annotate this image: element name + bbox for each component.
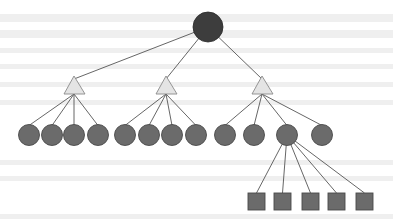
tree-edge <box>125 94 166 126</box>
square-leaf-node <box>274 193 291 210</box>
tree-edge <box>262 94 287 126</box>
tree-edges <box>29 27 365 193</box>
leaf-circle-node <box>312 125 333 146</box>
square-leaf-node <box>356 193 373 210</box>
leaf-circle-node <box>64 125 85 146</box>
triangle-node <box>64 76 85 94</box>
tree-edge <box>225 94 262 126</box>
tree-edge <box>74 94 98 126</box>
leaf-circle-node <box>277 125 298 146</box>
triangle-node <box>156 76 177 94</box>
leaf-circle-node <box>42 125 63 146</box>
leaf-circle-node <box>162 125 183 146</box>
leaf-circle-node <box>19 125 40 146</box>
tree-edge <box>149 94 166 126</box>
root-node-circle <box>193 12 223 42</box>
tree-edge <box>52 94 74 126</box>
tree-edge <box>29 94 74 126</box>
triangle-node <box>252 76 273 94</box>
leaf-circle-node <box>115 125 136 146</box>
square-leaf-node <box>302 193 319 210</box>
leaf-circle-node <box>186 125 207 146</box>
leaf-circle-node <box>139 125 160 146</box>
tree-diagram <box>0 0 393 224</box>
square-leaf-node <box>248 193 265 210</box>
square-leaf-node <box>328 193 345 210</box>
tree-edge <box>254 94 262 126</box>
tree-edge <box>74 27 208 79</box>
tree-edge <box>287 135 337 193</box>
leaf-circle-node <box>244 125 265 146</box>
leaf-circle-node <box>88 125 109 146</box>
tree-edge <box>166 94 196 126</box>
tree-edge <box>262 94 322 126</box>
leaf-circle-node <box>215 125 236 146</box>
